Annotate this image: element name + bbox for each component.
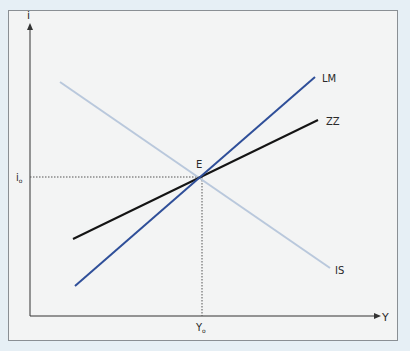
equilibrium-label: E [196, 159, 202, 170]
is-label: IS [335, 265, 344, 276]
zz-label: ZZ [326, 116, 340, 127]
x-axis-label: Y [381, 311, 389, 324]
y-axis-label: i [27, 9, 30, 22]
i0-label-sub: o [19, 177, 23, 184]
lm-label: LM [322, 73, 336, 84]
y0-label-sub: o [202, 327, 206, 334]
diagram-figure: i Y io Yo E LM ZZ IS [0, 0, 410, 351]
